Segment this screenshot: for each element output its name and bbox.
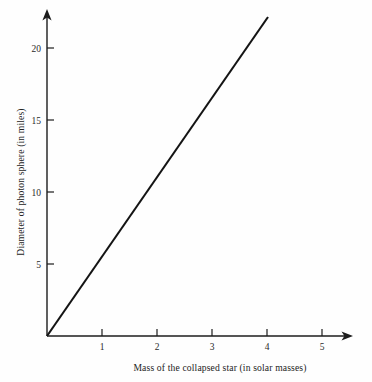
x-tick-label-4: 4 [265, 342, 270, 352]
x-tick-label-3: 3 [210, 342, 215, 352]
x-tick-label-2: 2 [155, 342, 160, 352]
data-series-line [47, 17, 268, 336]
y-tick-label-20: 20 [32, 44, 42, 54]
y-axis-title: Diameter of photon sphere (in miles) [15, 108, 27, 255]
y-tick-label-15: 15 [32, 116, 42, 126]
x-axis-title: Mass of the collapsed star (in solar mas… [133, 362, 306, 374]
y-tick-label-5: 5 [36, 260, 41, 270]
x-tick-label-5: 5 [320, 342, 325, 352]
line-chart-plot: 1 2 3 4 5 5 10 15 20 Diameter of photon … [0, 0, 372, 382]
x-tick-label-1: 1 [100, 342, 105, 352]
chart-container: 1 2 3 4 5 5 10 15 20 Diameter of photon … [0, 0, 372, 382]
y-tick-label-10: 10 [32, 188, 42, 198]
